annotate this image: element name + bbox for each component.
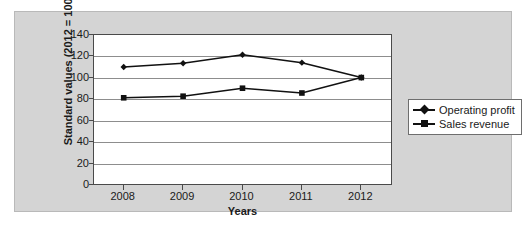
data-point <box>239 51 245 57</box>
x-tick-mark <box>123 185 124 190</box>
chart-legend: Operating profit Sales revenue <box>408 99 522 135</box>
legend-label: Sales revenue <box>439 118 509 130</box>
x-tick-mark <box>301 185 302 190</box>
y-tick-label: 40 <box>63 136 89 147</box>
x-tick-label: 2009 <box>160 190 204 202</box>
data-point <box>121 64 127 70</box>
data-point <box>359 75 365 81</box>
x-tick-label: 2011 <box>279 190 323 202</box>
y-tick-label: 140 <box>63 29 89 40</box>
chart-figure: Standard values (2012 = 100) 140 120 100… <box>0 0 525 231</box>
data-point <box>299 90 305 96</box>
y-tick-label: 20 <box>63 157 89 168</box>
x-axis-title: Years <box>93 205 392 217</box>
y-tick-label: 60 <box>63 114 89 125</box>
x-tick-label: 2010 <box>220 190 264 202</box>
y-tick-label: 0 <box>63 179 89 190</box>
series-layer <box>94 35 391 184</box>
y-tick-label: 100 <box>63 71 89 82</box>
x-tick-mark <box>242 185 243 190</box>
y-tick-label: 80 <box>63 93 89 104</box>
y-axis-tick-labels: 140 120 100 80 60 40 20 0 <box>59 34 89 185</box>
legend-square-icon <box>413 118 435 130</box>
data-point <box>180 93 186 99</box>
legend-entry-operating-profit[interactable]: Operating profit <box>413 103 515 117</box>
data-point <box>180 60 186 66</box>
y-tick-label: 120 <box>63 50 89 61</box>
legend-diamond-icon <box>413 104 435 116</box>
legend-entry-sales-revenue[interactable]: Sales revenue <box>413 117 515 131</box>
data-point <box>299 59 305 65</box>
x-tick-label: 2012 <box>338 190 382 202</box>
data-point <box>121 95 127 101</box>
chart-panel: Standard values (2012 = 100) 140 120 100… <box>14 11 512 212</box>
x-axis-tick-labels: 2008 2009 2010 2011 2012 <box>93 190 392 204</box>
data-point <box>240 85 246 91</box>
plot-area <box>93 34 392 185</box>
legend-label: Operating profit <box>439 104 515 116</box>
x-tick-label: 2008 <box>101 190 145 202</box>
series-markers-operating-profit <box>121 51 365 80</box>
x-tick-mark <box>360 185 361 190</box>
series-line-operating-profit <box>124 55 362 78</box>
x-tick-mark <box>182 185 183 190</box>
